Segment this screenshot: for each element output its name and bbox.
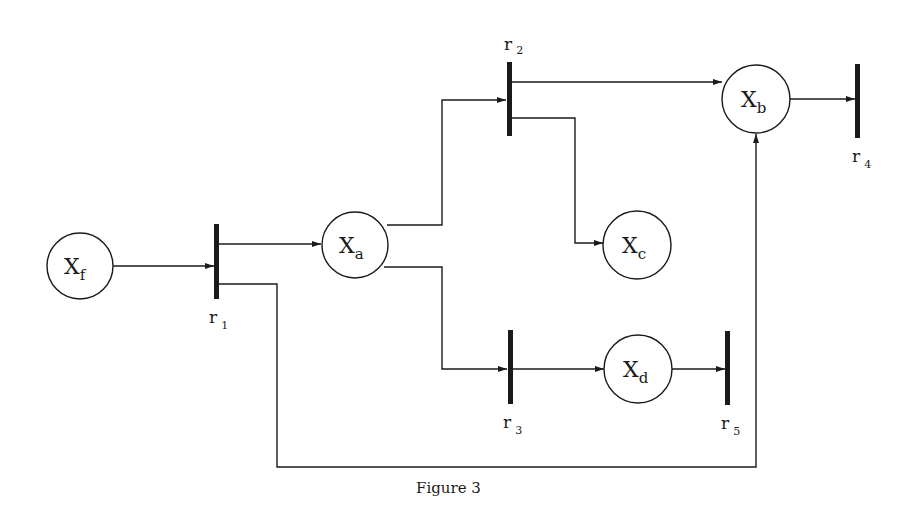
arc-r2-xc (512, 118, 603, 243)
transition-r3-bar (508, 330, 513, 404)
arc-xa-r2 (387, 100, 506, 225)
transition-r1-bar (214, 224, 219, 299)
transition-r4-label: r4 (852, 146, 871, 171)
reaction-network-diagram: Xf Xa Xb Xc Xd r1 r2 r3 r4 r5 Figure 3 (0, 0, 917, 523)
transition-r4-bar (855, 64, 860, 138)
figure-caption: Figure 3 (416, 479, 481, 497)
transition-r3-label: r3 (503, 412, 522, 437)
transition-r2-bar (507, 62, 512, 136)
transition-r5-bar (725, 331, 730, 405)
transition-r5-label: r5 (721, 413, 740, 438)
transition-r2-label: r2 (504, 34, 523, 57)
arc-r1-xb (219, 134, 756, 467)
arc-xa-r3 (384, 267, 507, 369)
transition-r1-label: r1 (209, 307, 228, 332)
